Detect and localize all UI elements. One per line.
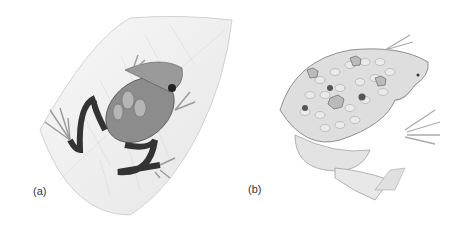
panel-b-label: (b) [248, 183, 261, 195]
panel-b: (b) [235, 0, 470, 235]
panel-a-label: (a) [33, 185, 46, 197]
surinam-toad-illustration [235, 0, 470, 235]
panel-a: (a) [0, 0, 235, 235]
frog-on-leaf-illustration [0, 0, 235, 235]
